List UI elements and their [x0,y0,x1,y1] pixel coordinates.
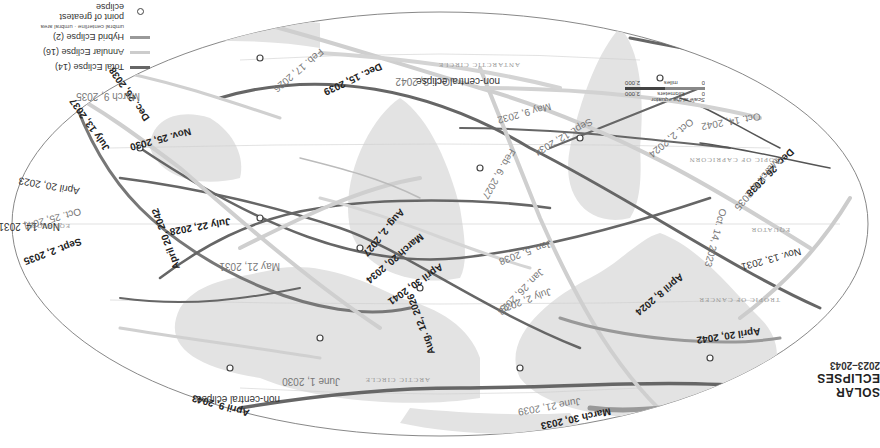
scale-caption: Scale at the equator [625,97,705,103]
tropic-cancer-label: TROPIC OF CANCER [698,296,780,304]
title-main: SOLAR ECLIPSES [780,371,880,399]
legend-total: Total Eclipse (14) [40,60,150,75]
hybrid-notes: umbral centerline · umbral area [40,24,124,30]
label-mar9-2035: March 9, 2035 [76,91,140,102]
arctic-circle-label: ARCTIC CIRCLE [365,376,430,384]
equator-label: EQUATOR [750,226,790,234]
annular-swatch-icon [130,51,150,54]
legend: Total Eclipse (14) Annular Eclipse (16) … [40,0,150,75]
label-jun1-2030: June 1, 2030 [282,376,340,387]
hybrid-swatch-icon [130,36,150,39]
antarctic-circle-label: ANTARCTIC CIRCLE [438,61,520,69]
scale-bar: Scale at the equator 0 kilometers 3,000 … [625,80,705,103]
total-swatch-icon [130,66,150,69]
label-may21-2031: May 21, 2031 [219,261,280,272]
label-apr9-2043-note: non-central eclipse [196,394,280,405]
legend-annular: Annular Eclipse (16) [40,45,150,60]
title-sub: 2023–2043 [780,360,880,371]
scale-bar-graphic [625,87,705,90]
label-oct3-2042-note: non-central eclipse [416,76,500,87]
legend-greatest: point of greatest eclipse [40,0,150,24]
title-block: SOLAR ECLIPSES 2023–2043 [780,360,880,399]
greatest-point-icon [137,9,144,16]
legend-hybrid: Hybrid Eclipse (2) [40,30,150,45]
